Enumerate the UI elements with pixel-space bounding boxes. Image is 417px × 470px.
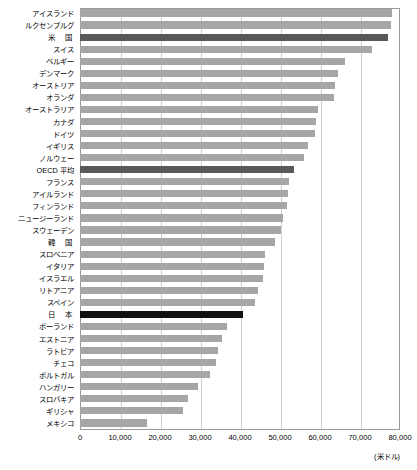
bar	[80, 34, 388, 41]
bar-row	[80, 346, 400, 358]
category-label: ノルウェー	[0, 153, 74, 165]
category-label: アイルランド	[0, 189, 74, 201]
category-label: ギリシャ	[0, 406, 74, 418]
bar	[80, 407, 183, 414]
bar	[80, 82, 335, 89]
category-label: 日 本	[0, 309, 74, 321]
bar-row	[80, 418, 400, 430]
bar-row	[80, 129, 400, 141]
bar	[80, 299, 255, 306]
bar-row	[80, 20, 400, 32]
category-label: オーストリア	[0, 80, 74, 92]
bar-row	[80, 153, 400, 165]
bar-row	[80, 104, 400, 116]
bar	[80, 347, 218, 354]
bar-row	[80, 8, 400, 20]
bar-row	[80, 334, 400, 346]
bar-row	[80, 321, 400, 333]
category-label: チェコ	[0, 358, 74, 370]
x-axis: 010,00020,00030,00040,00050,00060,00070,…	[0, 430, 409, 448]
bar	[80, 94, 334, 101]
category-label: ルクセンブルグ	[0, 20, 74, 32]
bar	[80, 21, 391, 28]
bar	[80, 263, 264, 270]
bar-row	[80, 285, 400, 297]
bar-row	[80, 309, 400, 321]
bar-row	[80, 44, 400, 56]
category-label: リトアニア	[0, 285, 74, 297]
bar-row	[80, 225, 400, 237]
bar-row	[80, 92, 400, 104]
bar-row	[80, 32, 400, 44]
bar-row	[80, 297, 400, 309]
bar-row	[80, 213, 400, 225]
bar-row	[80, 117, 400, 129]
bar-row	[80, 237, 400, 249]
bar-row	[80, 177, 400, 189]
category-label: OECD 平均	[0, 165, 74, 177]
bar	[80, 58, 345, 65]
category-label: メキシコ	[0, 418, 74, 430]
bar-row	[80, 394, 400, 406]
bar	[80, 238, 275, 245]
bar	[80, 154, 304, 161]
axis-unit-label: (米ドル)	[374, 450, 400, 461]
bar	[80, 46, 372, 53]
bar-row	[80, 406, 400, 418]
bar-row	[80, 273, 400, 285]
category-label: イタリア	[0, 261, 74, 273]
bar	[80, 166, 294, 173]
bar-row	[80, 201, 400, 213]
bar-row	[80, 261, 400, 273]
bar	[80, 275, 263, 282]
category-label: スロバキア	[0, 394, 74, 406]
bars-layer	[80, 8, 400, 430]
category-label: 米 国	[0, 32, 74, 44]
category-label: オランダ	[0, 92, 74, 104]
category-label: スペイン	[0, 297, 74, 309]
category-label: オーストラリア	[0, 104, 74, 116]
bar	[80, 178, 289, 185]
bar-row	[80, 189, 400, 201]
bar	[80, 383, 198, 390]
category-label: ポーランド	[0, 321, 74, 333]
category-label: ドイツ	[0, 129, 74, 141]
bar-row	[80, 56, 400, 68]
bar	[80, 371, 210, 378]
bar	[80, 214, 283, 221]
bar	[80, 70, 338, 77]
x-tick-label: 80,000	[370, 433, 417, 442]
category-label: イギリス	[0, 141, 74, 153]
bar	[80, 359, 216, 366]
category-label: ポルトガル	[0, 370, 74, 382]
bar	[80, 226, 281, 233]
bar-row	[80, 141, 400, 153]
category-labels: アイスランドルクセンブルグ米 国スイスベルギーデンマークオーストリアオランダオー…	[0, 8, 78, 430]
category-label: スイス	[0, 44, 74, 56]
bar	[80, 251, 265, 258]
bar	[80, 190, 288, 197]
bar	[80, 106, 318, 113]
category-label: 韓 国	[0, 237, 74, 249]
bar	[80, 118, 316, 125]
bar	[80, 142, 308, 149]
bar-row	[80, 382, 400, 394]
category-label: ベルギー	[0, 56, 74, 68]
category-label: アイスランド	[0, 8, 74, 20]
bar-row	[80, 370, 400, 382]
bar	[80, 323, 227, 330]
category-label: ニュージーランド	[0, 213, 74, 225]
category-label: フィンランド	[0, 201, 74, 213]
category-label: カナダ	[0, 117, 74, 129]
bar-row	[80, 80, 400, 92]
bar	[80, 9, 392, 16]
bar-row	[80, 68, 400, 80]
bar	[80, 202, 287, 209]
bar	[80, 130, 315, 137]
bar	[80, 287, 258, 294]
category-label: ハンガリー	[0, 382, 74, 394]
category-label: スロベニア	[0, 249, 74, 261]
bar	[80, 395, 188, 402]
bar	[80, 419, 147, 426]
category-label: デンマーク	[0, 68, 74, 80]
